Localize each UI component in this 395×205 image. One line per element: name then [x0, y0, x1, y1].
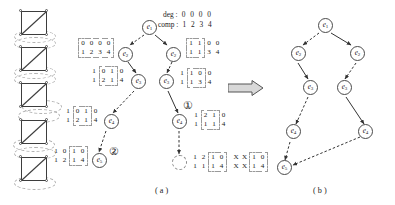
graph-3	[16, 80, 52, 110]
matrix-cell: 4	[79, 156, 89, 166]
comp-value: 1	[180, 20, 189, 29]
node-label: e5	[282, 164, 288, 171]
matrix-cell: 0	[196, 68, 206, 78]
matrix-cell: 1	[90, 67, 99, 76]
matrix-row-bottom: 1234	[78, 48, 114, 58]
matrix-cell: 3	[205, 48, 214, 57]
matrix-cell: 0	[259, 152, 269, 162]
deg-value: 0	[196, 10, 205, 19]
matrix-cell: 0	[105, 38, 115, 48]
matrix-cell: 1	[69, 156, 79, 166]
matrix-cell: 4	[118, 76, 127, 85]
node-b-e5[interactable]: e5	[277, 160, 292, 175]
matrix-cell: 4	[105, 48, 115, 58]
matrix-cell: 1	[69, 146, 79, 156]
caption-panel-a: ( a )	[155, 186, 168, 195]
node-b-e4-right[interactable]: e4	[358, 124, 373, 139]
matrix-cell: 1	[78, 48, 88, 58]
matrix-cell: 2	[88, 48, 97, 58]
matrix-cell: 1	[191, 153, 200, 162]
matrix-cell: 4	[92, 116, 101, 125]
node-a-placeholder[interactable]	[172, 155, 187, 170]
matrix-cell: 1	[90, 76, 99, 85]
matrix-cell: 1	[249, 152, 259, 162]
matrix-row-top: 1100	[178, 68, 214, 78]
graph-diagonal	[21, 83, 47, 107]
matrix-cell: 1	[208, 162, 218, 172]
node-a-e4-right[interactable]: e4	[172, 114, 187, 129]
node-label: e2	[355, 50, 361, 57]
matrix-cell: 3	[196, 78, 206, 88]
node-label: e1	[323, 22, 329, 29]
node-label: e3	[164, 78, 170, 85]
node-b-e4-left[interactable]: e4	[286, 124, 301, 139]
matrix-cell: 1	[210, 120, 220, 130]
caption-panel-b: ( b )	[313, 186, 327, 195]
deg-value: 0	[205, 10, 214, 19]
matrix-row-bottom: 1114	[192, 120, 228, 130]
matrix-cell: 1	[191, 162, 200, 171]
matrix-cell: 1	[52, 147, 61, 156]
comp-value: 3	[197, 20, 206, 29]
matrix-cell: 1	[82, 106, 92, 116]
matrix-cell: 0	[79, 146, 89, 156]
matrix-cell: X	[232, 153, 241, 162]
matrix-cell: 1	[210, 110, 220, 120]
matrix-cell: 1	[52, 156, 61, 165]
node-a-e3-left[interactable]: e3	[131, 74, 146, 89]
marker-two: ②	[108, 146, 119, 157]
right-arrow-icon	[228, 80, 264, 100]
node-label: e4	[291, 128, 297, 135]
matrix-row-top: 0000	[78, 38, 114, 48]
matrix-cell: 1	[178, 78, 187, 87]
matrix-cell: 2	[61, 156, 70, 165]
matrix-cell: X	[241, 153, 250, 162]
matrix-cell: 2	[201, 110, 211, 120]
graph-4	[16, 117, 52, 147]
matrix-e3-right: 1100 1134	[178, 68, 214, 88]
matrix-cell: 1	[186, 38, 196, 48]
matrix-cell: 4	[218, 162, 228, 172]
matrix-row-bottom: 1214	[90, 76, 126, 86]
node-label: e3	[136, 78, 142, 85]
graph-2	[16, 44, 52, 74]
matrix-cell: 0	[92, 107, 101, 116]
node-a-e2-left[interactable]: e2	[118, 47, 133, 62]
matrix-cell: 1	[196, 48, 206, 58]
matrix-cell: X	[232, 162, 241, 171]
node-a-e3-right[interactable]: e3	[159, 74, 174, 89]
matrix-cell: 0	[206, 69, 215, 78]
matrix-cell: 1	[200, 162, 209, 171]
deg-label: deg :	[163, 10, 178, 19]
matrix-cell: 1	[82, 116, 92, 126]
matrix-row-bottom: 1134	[178, 78, 214, 88]
matrix-e2-left: 0000 1234	[78, 38, 114, 58]
matrix-cell: 1	[201, 120, 211, 130]
node-b-e3-right[interactable]: e3	[337, 80, 352, 95]
node-a-e1[interactable]: e1	[142, 20, 157, 35]
matrix-cell: 2	[73, 116, 83, 126]
matrix-row-top: 1210	[192, 110, 228, 120]
matrix-cell: 1	[64, 107, 73, 116]
matrix-cell: 4	[220, 120, 229, 129]
matrix-cell: 0	[99, 66, 109, 76]
matrix-e6-right-xx: XX10 XX14	[232, 152, 268, 172]
graph-5	[16, 154, 52, 184]
node-b-e2-left[interactable]: e2	[291, 46, 306, 61]
matrix-cell: 0	[61, 147, 70, 156]
matrix-cell: 1	[192, 111, 201, 120]
node-b-e3-left[interactable]: e3	[303, 80, 318, 95]
node-b-e2-right[interactable]: e2	[350, 46, 365, 61]
node-a-e2-right[interactable]: e2	[166, 47, 181, 62]
matrix-cell: X	[241, 162, 250, 171]
graph-diagonal	[21, 11, 47, 35]
matrix-cell: 0	[78, 38, 88, 48]
matrix-row-bottom: XX14	[232, 162, 268, 172]
matrix-cell: 1	[187, 68, 197, 78]
node-a-e5-left[interactable]: e5	[92, 153, 107, 168]
matrix-cell: 1	[178, 69, 187, 78]
node-a-e4-left[interactable]: e4	[104, 114, 119, 129]
matrix-cell: 0	[96, 38, 105, 48]
matrix-cell: 1	[64, 116, 73, 125]
node-b-e1[interactable]: e1	[318, 18, 333, 33]
